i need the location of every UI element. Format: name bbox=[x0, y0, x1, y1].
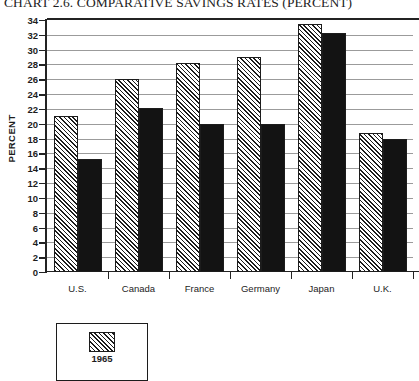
y-axis-tick-label: 22 bbox=[2, 103, 38, 114]
y-axis-tick bbox=[39, 64, 45, 65]
y-axis-tick bbox=[39, 183, 45, 184]
y-axis-tick bbox=[39, 213, 45, 214]
y-axis-tick-label: 16 bbox=[2, 148, 38, 159]
y-axis-tick bbox=[39, 109, 45, 110]
x-axis-tick bbox=[169, 272, 170, 279]
y-axis-tick-label: 4 bbox=[2, 237, 38, 248]
y-axis-tick-labels: 0246810121416182022242628303234 bbox=[0, 0, 38, 362]
bar-japan-series2 bbox=[322, 33, 346, 272]
legend-entry: 1965 bbox=[57, 332, 147, 364]
y-axis-tick-label: 28 bbox=[2, 59, 38, 70]
bar-japan-series1 bbox=[298, 24, 322, 272]
gridline bbox=[47, 50, 413, 51]
bar-germany-series1 bbox=[237, 57, 261, 272]
y-axis-tick-label: 26 bbox=[2, 74, 38, 85]
y-axis-tick-label: 34 bbox=[2, 15, 38, 26]
bar-us-series2 bbox=[78, 159, 102, 272]
y-axis-tick bbox=[39, 139, 45, 140]
y-axis-tick-label: 30 bbox=[2, 44, 38, 55]
x-axis-category-label: France bbox=[185, 283, 215, 294]
gridline bbox=[47, 124, 413, 125]
x-axis-tick bbox=[291, 272, 292, 279]
y-axis-tick bbox=[39, 257, 45, 258]
y-axis-tick bbox=[39, 20, 45, 21]
legend-swatch bbox=[89, 332, 115, 352]
x-axis-tick bbox=[230, 272, 231, 279]
gridline bbox=[47, 64, 413, 65]
x-axis-category-label: Germany bbox=[241, 283, 280, 294]
chart-title: CHART 2.6. COMPARATIVE SAVINGS RATES (PE… bbox=[4, 0, 352, 11]
bar-us-series1 bbox=[54, 116, 78, 272]
y-axis-tick bbox=[39, 228, 45, 229]
x-axis-tick bbox=[108, 272, 109, 279]
y-axis-tick bbox=[39, 50, 45, 51]
x-axis-category-label: Japan bbox=[309, 283, 335, 294]
gridline bbox=[47, 79, 413, 80]
y-axis-tick-label: 2 bbox=[2, 252, 38, 263]
y-axis-tick-label: 8 bbox=[2, 207, 38, 218]
y-axis-tick bbox=[39, 168, 45, 169]
y-axis-tick bbox=[39, 198, 45, 199]
x-axis-category-label: U.S. bbox=[68, 283, 86, 294]
bar-germany-series2 bbox=[261, 124, 285, 272]
y-axis-tick-label: 18 bbox=[2, 133, 38, 144]
bar-canada-series2 bbox=[139, 108, 163, 272]
y-axis-tick-label: 0 bbox=[2, 267, 38, 278]
y-axis-tick-label: 6 bbox=[2, 222, 38, 233]
bar-uk-series1 bbox=[359, 133, 383, 272]
x-axis-tick bbox=[352, 272, 353, 279]
y-axis-tick-label: 24 bbox=[2, 89, 38, 100]
legend: 1965 bbox=[56, 323, 148, 381]
y-axis-tick-label: 14 bbox=[2, 163, 38, 174]
plot-area bbox=[47, 20, 413, 272]
y-axis-tick-label: 12 bbox=[2, 178, 38, 189]
legend-label: 1965 bbox=[57, 353, 147, 364]
y-axis-tick-label: 20 bbox=[2, 118, 38, 129]
bar-uk-series2 bbox=[383, 139, 407, 272]
y-axis-tick bbox=[39, 242, 45, 243]
gridline bbox=[47, 35, 413, 36]
y-axis-tick bbox=[39, 272, 45, 273]
gridline bbox=[47, 94, 413, 95]
y-axis-tick-label: 10 bbox=[2, 192, 38, 203]
x-axis-category-label: Canada bbox=[122, 283, 155, 294]
y-axis-tick bbox=[39, 94, 45, 95]
y-axis-tick bbox=[39, 153, 45, 154]
bar-france-series2 bbox=[200, 124, 224, 272]
x-axis-category-label: U.K. bbox=[373, 283, 391, 294]
y-axis-tick bbox=[39, 35, 45, 36]
bar-france-series1 bbox=[176, 63, 200, 272]
bar-canada-series1 bbox=[115, 79, 139, 272]
gridline bbox=[47, 109, 413, 110]
x-axis-tick bbox=[413, 272, 414, 279]
y-axis-tick bbox=[39, 79, 45, 80]
y-axis-tick-label: 32 bbox=[2, 29, 38, 40]
y-axis-tick bbox=[39, 124, 45, 125]
